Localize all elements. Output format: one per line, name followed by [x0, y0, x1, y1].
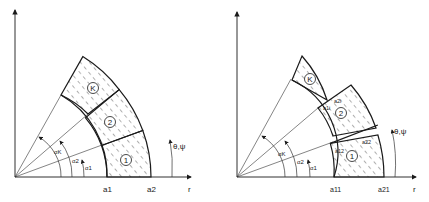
region-k-label: K [90, 84, 96, 93]
a11-label: a11 [330, 186, 341, 193]
a22-label: a22 [362, 139, 371, 145]
region-2-label: 2 [108, 118, 113, 127]
a1i-label: a1i [323, 105, 330, 111]
a2-label: a2 [147, 185, 156, 194]
r-label: r [413, 185, 416, 194]
region-1-label: 1 [350, 152, 355, 161]
alpha-1-label: α1 [310, 165, 317, 171]
r-label: r [188, 185, 191, 194]
a12-label: a12 [335, 148, 344, 154]
alpha-k-label: αK [278, 151, 285, 157]
a1-label: a1 [103, 185, 112, 194]
region-k-label: K [307, 75, 313, 84]
theta-psi-label: θ,ψ [394, 127, 407, 136]
a21-label: a21 [378, 186, 390, 193]
a2i-label: a2i [334, 98, 341, 104]
alpha-k-label: αK [54, 149, 61, 155]
alpha-1-label: α1 [85, 165, 92, 171]
alpha-2-label: α2 [297, 159, 304, 165]
right-panel: 1 2 K a22 a12 a2i a1i α1 α2 αK θ,ψ a11 a… [237, 12, 416, 194]
theta-psi-label: θ,ψ [173, 142, 186, 151]
left-panel: 1 2 K α1 α2 αK θ,ψ a1 a2 r [15, 10, 191, 194]
alpha-2-label: α2 [72, 158, 79, 164]
figure: 1 2 K α1 α2 αK θ,ψ a1 a2 r [0, 0, 429, 202]
region-1-label: 1 [124, 156, 129, 165]
region-2-label: 2 [339, 109, 344, 118]
